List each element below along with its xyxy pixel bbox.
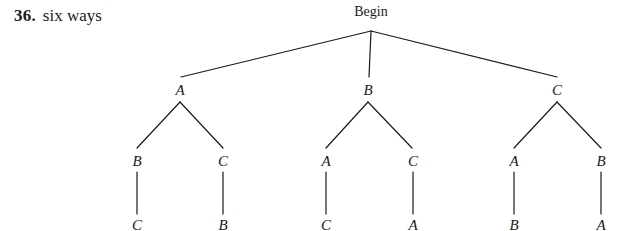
tree-edge-branch-3	[368, 102, 412, 148]
tree-node-level4-2: C	[321, 217, 331, 231]
tree-node-level4-4: B	[509, 217, 518, 231]
tree-edges	[0, 0, 629, 231]
tree-diagram-figure: 36.six ways BeginABCBCACABCBCABA	[0, 0, 629, 231]
tree-node-level2-1: B	[363, 82, 372, 99]
tree-node-level2-0: A	[175, 82, 184, 99]
tree-node-level2-2: C	[552, 82, 562, 99]
tree-edge-root-1	[369, 31, 371, 77]
tree-edge-branch-0	[137, 102, 180, 148]
tree-node-level3-4: A	[509, 153, 518, 170]
root-edge-group	[181, 31, 557, 77]
tree-edge-branch-4	[514, 102, 557, 148]
tree-edge-root-2	[371, 31, 557, 77]
tree-edge-root-0	[181, 31, 371, 77]
tree-node-level3-0: B	[132, 153, 141, 170]
tree-node-level3-1: C	[218, 153, 228, 170]
tree-node-level4-1: B	[218, 217, 227, 231]
tree-node-level3-3: C	[408, 153, 418, 170]
tree-edge-branch-5	[557, 102, 601, 148]
tree-node-level4-5: A	[596, 217, 605, 231]
tree-edge-branch-2	[326, 102, 368, 148]
branch-edge-group	[137, 102, 601, 148]
tree-node-level4-0: C	[132, 217, 142, 231]
vertical-edge-group	[137, 172, 601, 214]
tree-node-level3-2: A	[321, 153, 330, 170]
tree-node-level3-5: B	[596, 153, 605, 170]
tree-node-level4-3: A	[408, 217, 417, 231]
tree-node-root: Begin	[354, 4, 387, 20]
tree-edge-branch-1	[180, 102, 223, 148]
